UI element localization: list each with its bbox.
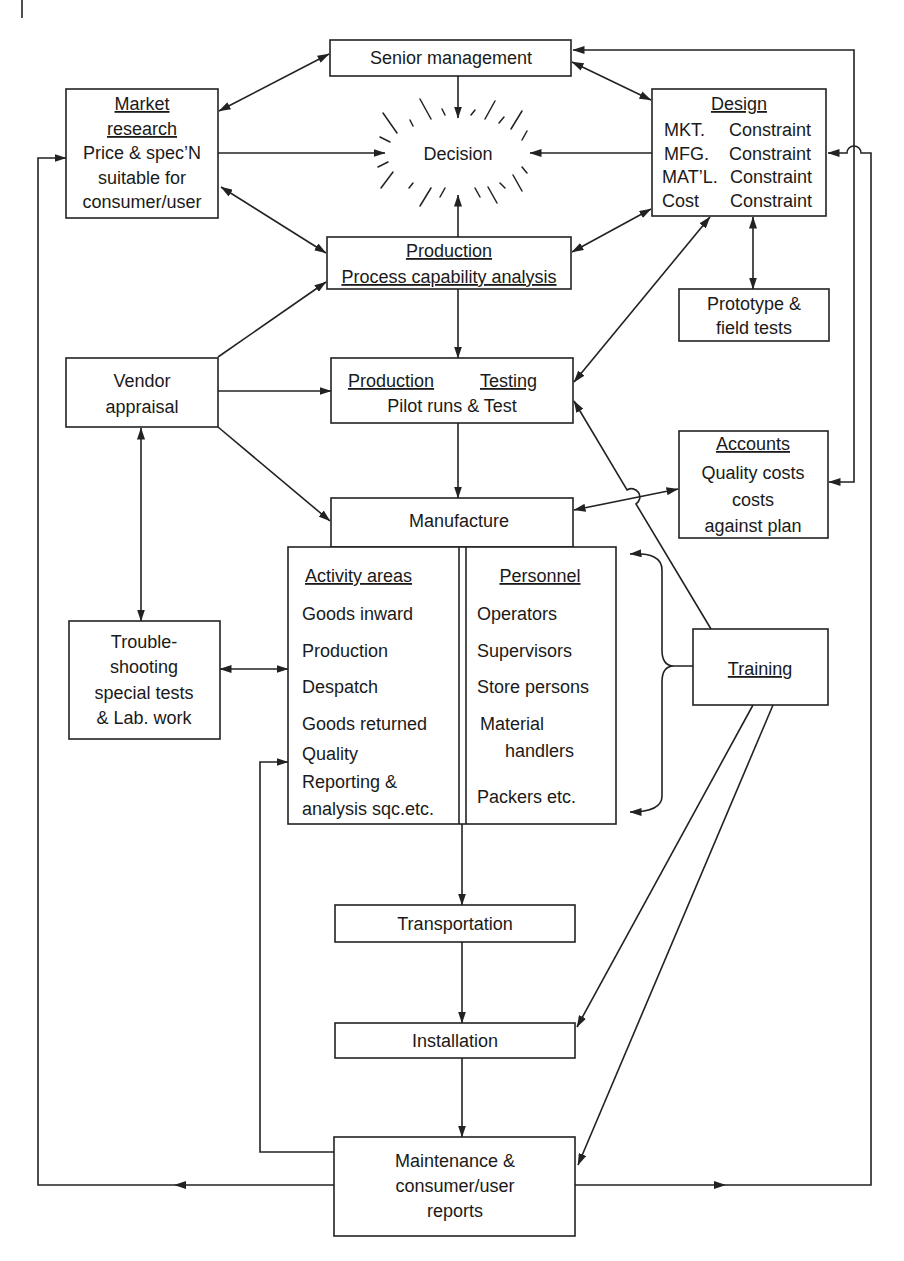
troubleshooting-line: & Lab. work — [96, 708, 192, 728]
decision-label: Decision — [423, 144, 492, 164]
arrow-design-production — [572, 209, 651, 252]
activity-item: analysis sqc.etc. — [302, 799, 434, 819]
troubleshooting-line: Trouble- — [111, 632, 177, 652]
arrowhead-left-mid — [174, 1181, 186, 1189]
design-row-key: MAT’L. — [662, 167, 718, 187]
design-box: Design MKT. Constraint MFG. Constraint M… — [652, 89, 826, 216]
activity-item: Goods inward — [302, 604, 413, 624]
training-brace — [630, 554, 693, 812]
maintenance-line: reports — [427, 1201, 483, 1221]
production-box: Production Process capability analysis — [327, 237, 571, 289]
production-testing-title-left: Production — [348, 371, 434, 391]
design-row-value: Constraint — [729, 144, 811, 164]
transportation-box: Transportation — [335, 905, 575, 942]
installation-label: Installation — [412, 1031, 498, 1051]
arrowhead-right-mid — [714, 1181, 726, 1189]
activity-areas-title: Activity areas — [305, 566, 412, 586]
market-research-title-1: Market — [114, 94, 169, 114]
accounts-line: Quality costs — [701, 463, 804, 483]
production-title: Production — [406, 241, 492, 261]
vendor-line: Vendor — [113, 371, 170, 391]
troubleshooting-line: special tests — [94, 683, 193, 703]
vendor-appraisal-box: Vendor appraisal — [66, 358, 218, 427]
activity-item: Production — [302, 641, 388, 661]
manufacture-box: Manufacture — [331, 498, 573, 547]
arrow-market-production — [221, 187, 326, 253]
personnel-item: Supervisors — [477, 641, 572, 661]
maintenance-line: Maintenance & — [395, 1151, 515, 1171]
production-subtitle: Process capability analysis — [341, 267, 556, 287]
troubleshooting-box: Trouble- shooting special tests & Lab. w… — [69, 621, 220, 739]
personnel-item: Packers etc. — [477, 787, 576, 807]
market-research-title-2: research — [107, 119, 177, 139]
arrow-senior-market — [219, 54, 329, 111]
design-row-value: Constraint — [730, 191, 812, 211]
arrow-vendor-production — [218, 282, 326, 357]
production-testing-box: Production Testing Pilot runs & Test — [331, 358, 573, 423]
design-row-key: MKT. — [664, 120, 705, 140]
quality-flow-diagram: Decision Senior management Market resear… — [0, 0, 904, 1261]
production-testing-subtitle: Pilot runs & Test — [387, 396, 517, 416]
maintenance-box: Maintenance & consumer/user reports — [334, 1137, 575, 1236]
activity-item: Quality — [302, 744, 358, 764]
prototype-line: field tests — [716, 318, 792, 338]
arrow-vendor-manufacture — [218, 427, 330, 521]
installation-box: Installation — [335, 1023, 575, 1058]
prototype-box: Prototype & field tests — [679, 289, 829, 341]
personnel-title: Personnel — [499, 566, 580, 586]
market-research-line: consumer/user — [82, 192, 201, 212]
design-row-key: Cost — [662, 191, 699, 211]
accounts-line: costs — [732, 490, 774, 510]
senior-management-box: Senior management — [330, 40, 571, 76]
personnel-item: Store persons — [477, 677, 589, 697]
personnel-item: Material — [480, 714, 544, 734]
activity-item: Reporting & — [302, 772, 397, 792]
arrow-accounts-manufacture — [574, 489, 678, 510]
activity-item: Despatch — [302, 677, 378, 697]
production-testing-title-right: Testing — [480, 371, 537, 391]
training-box: Training — [693, 629, 828, 705]
arrow-senior-design — [572, 62, 651, 100]
training-title: Training — [728, 659, 792, 679]
design-row-value: Constraint — [730, 167, 812, 187]
transportation-label: Transportation — [397, 914, 512, 934]
maintenance-line: consumer/user — [395, 1176, 514, 1196]
design-row-key: MFG. — [664, 144, 709, 164]
market-research-line: Price & spec’N — [83, 143, 201, 163]
market-research-line: suitable for — [98, 168, 186, 188]
manufacture-label: Manufacture — [409, 511, 509, 531]
prototype-line: Prototype & — [707, 294, 801, 314]
market-research-box: Market research Price & spec’N suitable … — [66, 89, 218, 218]
design-title: Design — [711, 94, 767, 114]
activity-item: Goods returned — [302, 714, 427, 734]
troubleshooting-line: shooting — [110, 657, 178, 677]
accounts-box: Accounts Quality costs costs against pla… — [679, 431, 828, 538]
accounts-line: against plan — [704, 516, 801, 536]
accounts-title: Accounts — [716, 434, 790, 454]
design-row-value: Constraint — [729, 120, 811, 140]
senior-management-label: Senior management — [370, 48, 532, 68]
vendor-line: appraisal — [105, 397, 178, 417]
personnel-item: Operators — [477, 604, 557, 624]
personnel-item: handlers — [505, 741, 574, 761]
